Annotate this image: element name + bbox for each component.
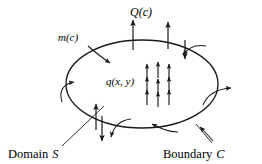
boundary-ellipse	[66, 40, 218, 128]
boundary-flux-arrow-group	[96, 40, 185, 141]
hook-upper-left-inward-icon	[88, 46, 110, 63]
hook-lower-right-inward-icon	[200, 127, 213, 141]
boundary-flux-label: m(c)	[58, 31, 78, 44]
hook-lower-left-outward-icon	[111, 119, 131, 137]
domain-label: DomainS	[8, 147, 59, 161]
boundary-label-text: Boundary	[163, 147, 213, 161]
boundary-label: BoundaryC	[163, 147, 225, 161]
figure-root: Q(c) m(c) q(x, y) DomainS BoundaryC	[0, 0, 262, 164]
interior-source-arrow-group	[147, 62, 169, 107]
domain-boundary-flux-diagram: Q(c) m(c) q(x, y) DomainS BoundaryC	[0, 0, 262, 164]
boundary-label-symbol: C	[216, 147, 225, 161]
hook-right-outward-icon	[203, 88, 231, 105]
domain-label-symbol: S	[52, 147, 59, 161]
top-flux-label: Q(c)	[130, 5, 152, 19]
domain-label-text: Domain	[8, 147, 49, 161]
hook-upper-right-inward-icon	[183, 45, 206, 55]
boundary-leader-line	[196, 124, 212, 143]
interior-source-label: q(x, y)	[106, 75, 134, 88]
top-outflow-arrow-group	[133, 20, 168, 50]
